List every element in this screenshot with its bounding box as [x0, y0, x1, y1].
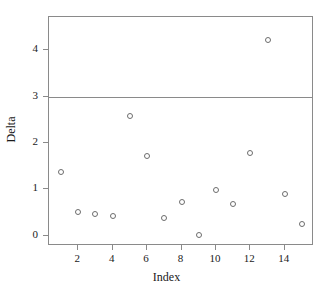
reference-line [49, 97, 312, 98]
y-tick-mark [43, 188, 48, 189]
data-point [161, 215, 167, 221]
scatter-plot-figure: 01234 2468101214 Delta Index [0, 0, 333, 295]
x-tick-label: 12 [237, 253, 261, 264]
x-tick-label: 14 [272, 253, 296, 264]
data-point [127, 113, 133, 119]
x-tick-label: 4 [100, 253, 124, 264]
x-tick-mark [249, 245, 250, 250]
data-point [299, 221, 305, 227]
data-point [75, 209, 81, 215]
data-point [110, 213, 116, 219]
y-tick-mark [43, 142, 48, 143]
y-tick-mark [43, 49, 48, 50]
data-point [230, 201, 236, 207]
x-tick-mark [112, 245, 113, 250]
data-points-layer [49, 17, 312, 244]
y-tick-label: 1 [14, 182, 38, 193]
x-tick-mark [284, 245, 285, 250]
data-point [58, 169, 64, 175]
data-point [247, 150, 253, 156]
y-tick-mark [43, 235, 48, 236]
x-tick-mark [181, 245, 182, 250]
data-point [179, 199, 185, 205]
plot-frame [48, 16, 313, 245]
x-tick-label: 10 [203, 253, 227, 264]
data-point [282, 191, 288, 197]
y-axis-label: Delta [4, 100, 19, 160]
x-tick-label: 8 [169, 253, 193, 264]
y-tick-label: 0 [14, 229, 38, 240]
x-tick-mark [146, 245, 147, 250]
x-tick-label: 2 [65, 253, 89, 264]
y-tick-mark [43, 96, 48, 97]
x-tick-label: 6 [134, 253, 158, 264]
data-point [144, 153, 150, 159]
data-point [265, 37, 271, 43]
data-point [196, 232, 202, 238]
x-axis-label: Index [0, 270, 333, 285]
x-tick-mark [77, 245, 78, 250]
data-point [213, 187, 219, 193]
x-tick-mark [215, 245, 216, 250]
y-tick-label: 4 [14, 43, 38, 54]
data-point [92, 211, 98, 217]
